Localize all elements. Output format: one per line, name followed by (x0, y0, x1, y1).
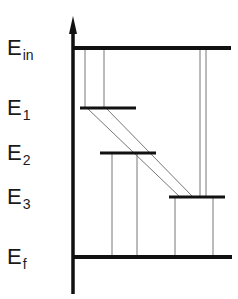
arrow-up-icon (69, 16, 77, 34)
label-subscript: f (23, 256, 27, 272)
label-main: E (7, 140, 22, 165)
energy-levels (73, 48, 232, 257)
label-subscript: in (23, 47, 34, 63)
label-E_2: E2 (7, 142, 30, 164)
label-main: E (7, 95, 22, 120)
label-subscript: 3 (23, 196, 31, 212)
label-E_3: E3 (7, 186, 30, 208)
label-E_in: Ein (7, 37, 34, 59)
label-subscript: 1 (23, 107, 31, 123)
label-E_f: Ef (7, 246, 27, 268)
energy-axis (69, 16, 77, 294)
label-subscript: 2 (23, 152, 31, 168)
label-main: E (7, 244, 22, 269)
label-E_1: E1 (7, 97, 30, 119)
label-main: E (7, 184, 22, 209)
label-main: E (7, 35, 22, 60)
energy-level-diagram (0, 0, 238, 299)
